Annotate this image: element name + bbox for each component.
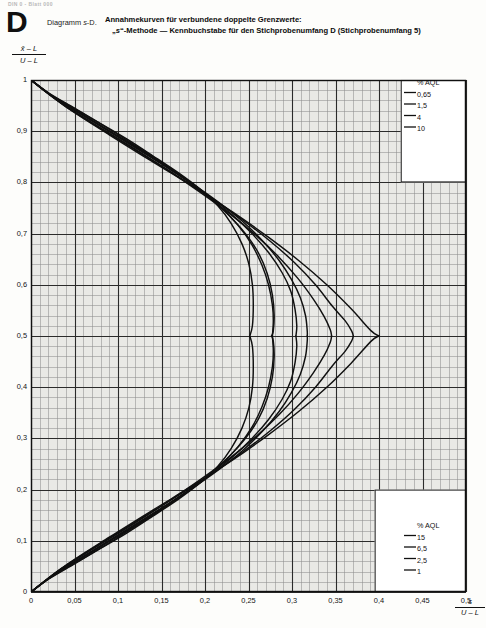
x-tick-label: 0,2 [188,596,222,605]
x-tick-label: 0,25 [232,596,266,605]
legend-bottom-title: % AQL [417,521,439,530]
y-tick-label: 0,3 [1,433,27,442]
y-tick-label: 0,8 [1,177,27,186]
x-tick-label: 0 [14,596,48,605]
legend-bottom-item: 15 [417,532,439,544]
x-tick-label: 0,1 [101,596,135,605]
y-tick-label: 0,6 [1,280,27,289]
legend-top-item: 4 [417,112,439,124]
y-tick-label: 0 [1,587,27,596]
legend-top-item: 10 [417,123,439,135]
legend-bottom-item: 6,5 [417,543,439,555]
legend-top: % AQL 0,65 1,5 4 10 [417,78,439,135]
y-tick-label: 0,7 [1,229,27,238]
x-tick-label: 0,45 [406,596,440,605]
x-tick-label: 0,5 [449,596,483,605]
x-tick-label: 0,05 [58,596,92,605]
x-tick-label: 0,4 [362,596,396,605]
legend-top-item: 1,5 [417,100,439,112]
chart-plot-area [0,0,486,628]
y-tick-label: 0,9 [1,126,27,135]
legend-top-title: % AQL [417,78,439,87]
y-tick-label: 1 [1,75,27,84]
x-tick-label: 0,35 [319,596,353,605]
y-tick-label: 0,5 [1,331,27,340]
y-tick-label: 0,1 [1,536,27,545]
x-tick-label: 0,3 [275,596,309,605]
x-tick-label: 0,15 [145,596,179,605]
y-tick-label: 0,2 [1,485,27,494]
legend-bottom: % AQL 15 6,5 2,5 1 [417,521,439,578]
chart-svg [0,0,486,628]
legend-bottom-item: 1 [417,566,439,578]
legend-top-item: 0,65 [417,89,439,101]
y-tick-label: 0,4 [1,382,27,391]
legend-bottom-item: 2,5 [417,555,439,567]
